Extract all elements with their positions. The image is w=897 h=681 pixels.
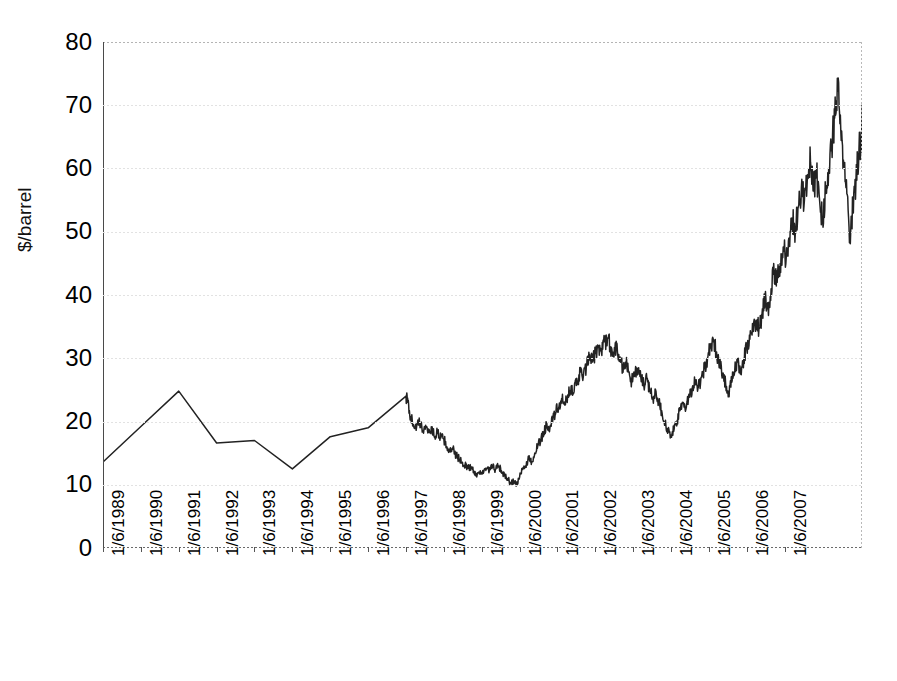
x-tick-label-1-6-1990: 1/6/1990 xyxy=(148,490,165,556)
x-axis-tick-labels: 1/6/19891/6/19901/6/19911/6/19921/6/1993… xyxy=(0,548,897,681)
plot-area xyxy=(103,42,862,548)
y-tick-70: 70 xyxy=(36,93,92,117)
plot-border-top xyxy=(103,42,862,43)
gridline-30 xyxy=(103,358,862,359)
x-tick-label-1-6-1998: 1/6/1998 xyxy=(451,490,468,556)
oil-price-chart: $/barrel 80 70 60 50 40 30 20 10 0 1/6/1… xyxy=(0,0,897,681)
y-tick-60: 60 xyxy=(36,156,92,180)
x-tick-label-1-6-1995: 1/6/1995 xyxy=(337,490,354,556)
gridline-50 xyxy=(103,232,862,233)
gridline-60 xyxy=(103,168,862,169)
x-tick-label-1-6-1999: 1/6/1999 xyxy=(489,490,506,556)
x-tick-label-1-6-2006: 1/6/2006 xyxy=(754,490,771,556)
y-tick-80: 80 xyxy=(36,30,92,54)
x-tick-label-1-6-1996: 1/6/1996 xyxy=(375,490,392,556)
x-tick-label-1-6-2003: 1/6/2003 xyxy=(640,490,657,556)
gridline-20 xyxy=(103,422,862,423)
x-tick-label-1-6-2005: 1/6/2005 xyxy=(716,490,733,556)
x-tick-label-1-6-1994: 1/6/1994 xyxy=(299,490,316,556)
y-tick-30: 30 xyxy=(36,346,92,370)
y-tick-20: 20 xyxy=(36,409,92,433)
x-tick-label-1-6-1991: 1/6/1991 xyxy=(186,490,203,556)
x-tick-label-1-6-1997: 1/6/1997 xyxy=(413,490,430,556)
x-tick-label-1-6-1989: 1/6/1989 xyxy=(110,490,127,556)
gridline-40 xyxy=(103,295,862,296)
x-tick-label-1-6-2004: 1/6/2004 xyxy=(678,490,695,556)
y-tick-40: 40 xyxy=(36,283,92,307)
y-tick-10: 10 xyxy=(36,472,92,496)
x-tick-label-1-6-2002: 1/6/2002 xyxy=(602,490,619,556)
x-tick-label-1-6-1992: 1/6/1992 xyxy=(224,490,241,556)
gridline-70 xyxy=(103,105,862,106)
x-tick-label-1-6-2001: 1/6/2001 xyxy=(564,490,581,556)
x-tick-label-1-6-2000: 1/6/2000 xyxy=(527,490,544,556)
y-tick-50: 50 xyxy=(36,219,92,243)
x-tick-label-1-6-2007: 1/6/2007 xyxy=(792,490,809,556)
x-tick-label-1-6-1993: 1/6/1993 xyxy=(261,490,278,556)
gridline-10 xyxy=(103,485,862,486)
